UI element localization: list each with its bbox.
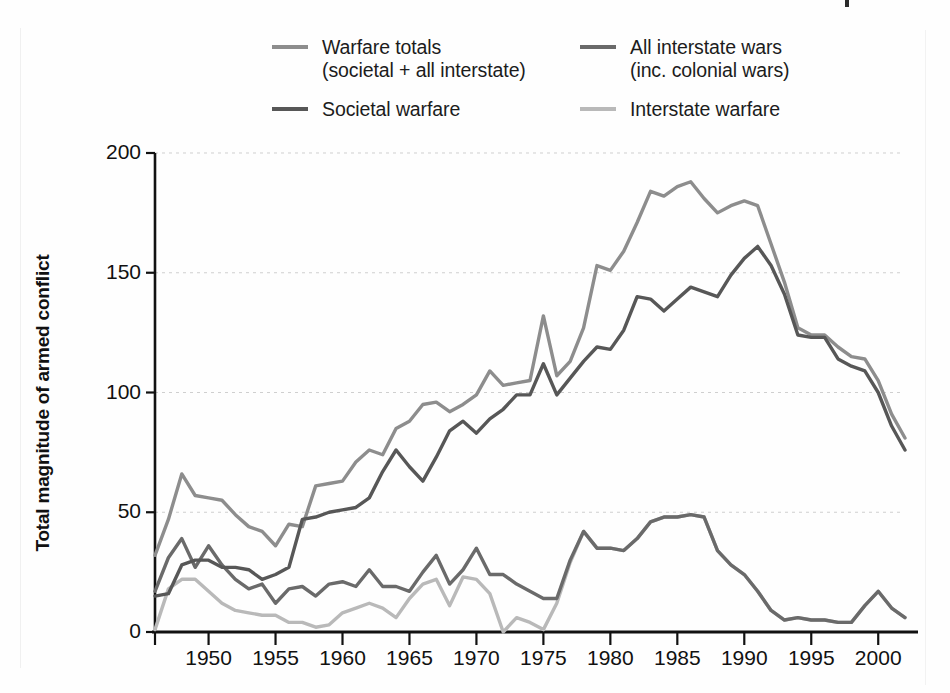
- plot-area: Total magnitude of armed conflict 050100…: [0, 0, 950, 693]
- data-series-group: [155, 182, 905, 632]
- gridlines: [155, 153, 900, 512]
- series-line-all-interstate-wars-inc-colonial-wars: [155, 515, 905, 623]
- chart-svg: [0, 0, 950, 693]
- figure-canvas: Warfare totals (societal + all interstat…: [0, 0, 950, 693]
- series-line-interstate-warfare: [155, 515, 905, 632]
- series-line-societal-warfare: [155, 246, 905, 596]
- series-line-warfare-totals-societal-all-interstate: [155, 182, 905, 556]
